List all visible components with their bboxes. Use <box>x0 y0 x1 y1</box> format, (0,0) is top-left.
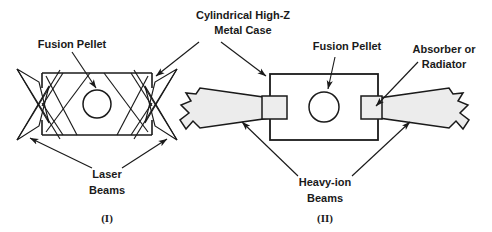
label-absorber-line2: Radiator <box>422 58 467 70</box>
heavy-ion-beam-left <box>180 88 270 129</box>
absorber-radiator-left <box>262 96 287 119</box>
label-fusion-pellet-right: Fusion Pellet <box>313 40 382 52</box>
label-absorber-line1: Absorber or <box>413 43 477 55</box>
label-cylindrical-case-line1: Cylindrical High-Z <box>196 9 290 21</box>
figure-root: Cylindrical High-Z Metal Case Fusion Pel… <box>0 0 492 232</box>
panel-two-group <box>180 74 469 140</box>
leader-laser-beams-right <box>122 139 167 168</box>
leader-case-to-left-panel <box>156 42 199 76</box>
laser-ray-inner-7 <box>131 103 152 135</box>
label-fusion-pellet-left: Fusion Pellet <box>38 38 107 50</box>
panel-one-group <box>17 69 177 140</box>
fusion-pellet-right <box>309 92 339 122</box>
icf-target-diagram: Cylindrical High-Z Metal Case Fusion Pel… <box>0 0 492 232</box>
label-heavy-ion-line2: Beams <box>307 192 343 204</box>
laser-ray-inner-5 <box>131 73 152 106</box>
leader-case-to-right-panel <box>221 42 266 76</box>
label-heavy-ion-line1: Heavy-ion <box>299 176 352 188</box>
laser-ray-inner-8 <box>42 103 63 135</box>
label-laser-beams-line2: Beams <box>89 184 125 196</box>
heavy-ion-beam-right <box>379 88 469 129</box>
leader-laser-beams-left <box>30 138 92 168</box>
absorber-radiator-right <box>361 96 382 119</box>
laser-ray-inner-6 <box>42 73 63 106</box>
label-cylindrical-case-line2: Metal Case <box>214 24 271 36</box>
panel-number-two: (II) <box>317 212 333 225</box>
leader-fusion-pellet-left <box>72 52 96 88</box>
fusion-pellet-left <box>83 90 111 118</box>
panel-number-one: (I) <box>101 212 113 225</box>
label-laser-beams-line1: Laser <box>92 168 122 180</box>
